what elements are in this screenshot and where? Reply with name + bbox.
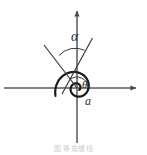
theta-label: θ	[82, 79, 87, 90]
alpha-label: α	[71, 30, 78, 44]
alpha-angle-arc	[59, 48, 85, 55]
figure-caption: 图 等角螺线	[0, 143, 147, 153]
radius-vector-line	[44, 45, 77, 88]
figure-container: α θ a 图 等角螺线	[0, 0, 147, 155]
radius-a-label: a	[85, 95, 91, 107]
spiral-diagram-svg	[0, 0, 147, 155]
